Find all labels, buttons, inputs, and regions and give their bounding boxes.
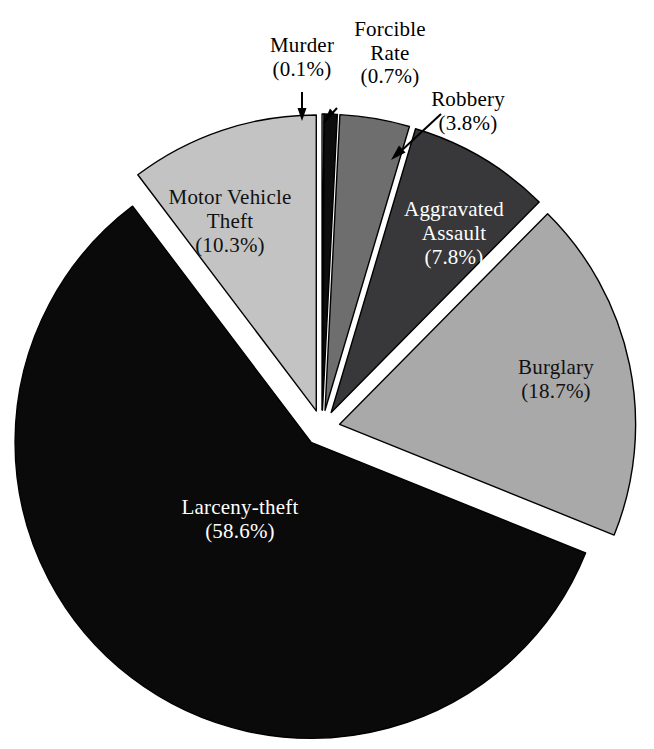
callout-forcible-name-line2: Rate (336, 42, 444, 66)
mvt-label-line1: Motor Vehicle (141, 186, 319, 210)
burglary-label-percent: (18.7%) (488, 380, 624, 404)
callout-label-robbery: Robbery (3.8%) (408, 88, 528, 135)
assault-label-line1: Aggravated (379, 198, 529, 222)
slice-label-larceny-theft: Larceny-theft (58.6%) (145, 496, 335, 544)
mvt-label-percent: (10.3%) (141, 234, 319, 258)
callout-murder-name: Murder (270, 33, 334, 57)
callout-robbery-percent: (3.8%) (408, 112, 528, 136)
callout-forcible-name-line1: Forcible (354, 17, 426, 41)
larceny-label-name: Larceny-theft (145, 496, 335, 520)
pie-chart-figure: Murder (0.1%)Forcible Rate (0.7%)Robbery… (0, 0, 654, 749)
assault-label-line2: Assault (379, 222, 529, 246)
callout-robbery-name: Robbery (431, 87, 505, 111)
larceny-label-percent: (58.6%) (145, 520, 335, 544)
slice-label-aggravated-assault: Aggravated Assault (7.8%) (379, 198, 529, 270)
pie-slices-group: Murder (0.1%)Forcible Rate (0.7%)Robbery… (15, 114, 636, 738)
burglary-label-name: Burglary (488, 356, 624, 380)
callout-forcible-percent: (0.7%) (336, 65, 444, 89)
assault-label-percent: (7.8%) (379, 246, 529, 270)
mvt-label-line2: Theft (141, 210, 319, 234)
callout-label-forcible-rate: Forcible Rate (0.7%) (336, 18, 444, 89)
slice-label-burglary: Burglary (18.7%) (488, 356, 624, 404)
slice-label-motor-vehicle-theft: Motor Vehicle Theft (10.3%) (141, 186, 319, 258)
